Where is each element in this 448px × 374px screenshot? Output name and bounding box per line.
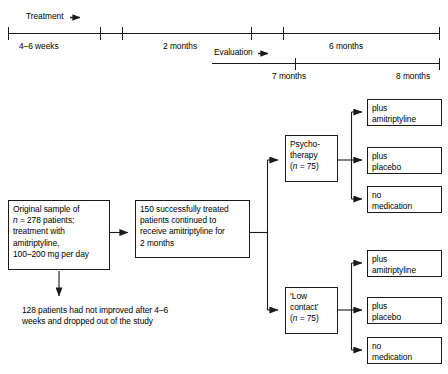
timeline-segment-label-6-months: 6 months xyxy=(329,41,363,51)
box-arm-psychotherapy: Psycho- therapy (n = 75) xyxy=(285,135,338,182)
box-original-sample: Original sample of n = 278 patients; tre… xyxy=(8,200,110,270)
box-arm-low-contact: ‘Low contact’ (n = 75) xyxy=(285,287,338,334)
box-top-no-medication: no medication xyxy=(367,186,442,213)
timeline-tick-label-8-months: 8 months xyxy=(396,71,430,81)
box-bottom-no-medication: no medication xyxy=(367,337,442,364)
box-continued-treatment: 150 successfully treated patients contin… xyxy=(135,200,250,258)
timeline-phase-label-evaluation: Evaluation xyxy=(214,47,253,57)
box-bottom-plus-amitriptyline: plus amitriptyline xyxy=(367,250,442,277)
timeline-segment-label-4-6-weeks: 4–6 weeks xyxy=(19,41,59,51)
box-bottom-plus-placebo: plus placebo xyxy=(367,297,442,324)
timeline-phase-label-treatment: Treatment xyxy=(26,11,63,21)
note-dropout: 128 patients had not improved after 4–6 … xyxy=(22,305,242,328)
box-top-plus-placebo: plus placebo xyxy=(367,147,442,174)
figure-canvas: Treatment 4–6 weeks 2 months 6 months Ev… xyxy=(0,0,448,374)
timeline-segment-label-2-months: 2 months xyxy=(163,41,197,51)
timeline-tick-label-7-months: 7 months xyxy=(272,71,306,81)
box-top-plus-amitriptyline: plus amitriptyline xyxy=(367,99,442,126)
